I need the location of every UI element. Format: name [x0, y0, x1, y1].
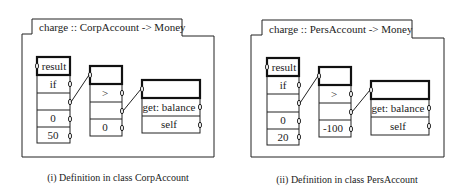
get-balance-message: get: balance	[143, 101, 196, 113]
if-port[interactable]	[69, 81, 72, 87]
greater-than-operator: >	[331, 88, 337, 100]
then-port[interactable]	[69, 133, 72, 139]
diagram-pers-account: charge :: PersAccount -> Money result if…	[251, 20, 444, 186]
comparison-value: 0	[102, 121, 108, 133]
message-box: get: balance self	[370, 81, 431, 135]
then-value: 50	[48, 129, 60, 141]
then-port[interactable]	[298, 134, 301, 140]
value-port[interactable]	[350, 126, 353, 132]
get-balance-message: get: balance	[372, 102, 425, 114]
receiver-port[interactable]	[199, 122, 202, 128]
if-port[interactable]	[298, 82, 301, 88]
value-port[interactable]	[121, 125, 124, 131]
result-label: result	[272, 61, 296, 73]
operator-port[interactable]	[121, 90, 124, 96]
result-port[interactable]	[266, 64, 269, 70]
connector-operand	[123, 89, 141, 111]
result-box: result if 0 50	[36, 57, 72, 143]
diagram-corp-account: charge :: CorpAccount -> Money result if…	[22, 19, 214, 184]
then-value: 20	[278, 131, 290, 143]
comparison-value: -100	[323, 122, 344, 134]
result-label: result	[42, 60, 66, 72]
message-port[interactable]	[199, 104, 202, 110]
self-receiver: self	[161, 118, 177, 130]
else-port[interactable]	[298, 118, 301, 124]
result-port[interactable]	[36, 63, 39, 69]
diagram-canvas: charge :: CorpAccount -> Money result if…	[0, 0, 471, 195]
else-value: 0	[50, 112, 56, 124]
operator-port[interactable]	[350, 91, 353, 97]
else-port[interactable]	[69, 116, 72, 122]
connector-operand	[352, 90, 370, 112]
if-label: if	[280, 79, 287, 91]
caption: (i) Definition in class CorpAccount	[47, 172, 189, 184]
comparison-box: > 0	[89, 66, 124, 136]
method-signature: charge :: PersAccount -> Money	[269, 23, 413, 35]
message-port[interactable]	[428, 105, 431, 111]
else-value: 0	[280, 114, 286, 126]
if-label: if	[50, 78, 57, 90]
result-box: result if 0 20	[266, 58, 301, 145]
connector-condition	[300, 76, 318, 103]
greater-than-operator: >	[102, 87, 108, 99]
method-signature: charge :: CorpAccount -> Money	[39, 21, 186, 33]
message-box: get: balance self	[141, 80, 202, 133]
connector-condition	[71, 75, 89, 102]
self-receiver: self	[390, 120, 406, 132]
caption: (ii) Definition in class PersAccount	[276, 174, 418, 186]
receiver-port[interactable]	[428, 123, 431, 129]
comparison-box: > -100	[318, 67, 353, 137]
